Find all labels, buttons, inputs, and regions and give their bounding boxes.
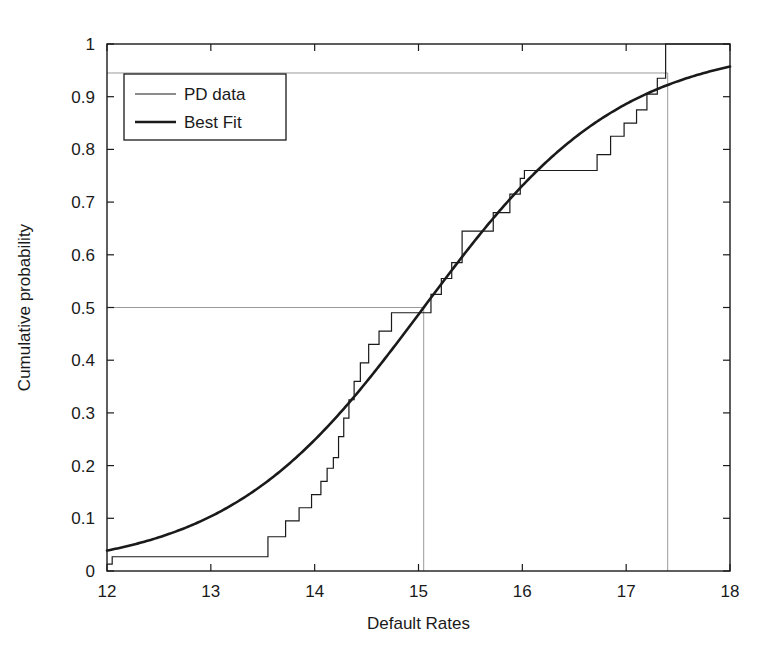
legend: PD dataBest Fit <box>124 74 286 140</box>
y-tick-label: 1 <box>86 35 95 54</box>
x-tick-label: 16 <box>513 582 532 601</box>
legend-label-1: PD data <box>184 85 246 104</box>
x-tick-label: 13 <box>201 582 220 601</box>
x-tick-label: 17 <box>617 582 636 601</box>
y-tick-label: 0.1 <box>71 509 95 528</box>
y-tick-label: 0.8 <box>71 140 95 159</box>
y-tick-label: 0.3 <box>71 404 95 423</box>
x-axis-label: Default Rates <box>367 614 470 633</box>
y-axis-label: Cumulative probability <box>15 223 34 391</box>
figure-container: 1213141516171800.10.20.30.40.50.60.70.80… <box>0 0 774 657</box>
y-tick-label: 0 <box>86 562 95 581</box>
y-tick-label: 0.4 <box>71 351 95 370</box>
y-tick-label: 0.2 <box>71 457 95 476</box>
y-tick-label: 0.6 <box>71 246 95 265</box>
y-tick-label: 0.7 <box>71 193 95 212</box>
reference-lines <box>107 73 668 571</box>
x-tick-label: 12 <box>98 582 117 601</box>
x-tick-label: 15 <box>409 582 428 601</box>
cdf-plot: 1213141516171800.10.20.30.40.50.60.70.80… <box>0 0 774 657</box>
x-tick-label: 18 <box>721 582 740 601</box>
legend-label-2: Best Fit <box>184 113 242 132</box>
x-tick-label: 14 <box>305 582 324 601</box>
y-tick-label: 0.5 <box>71 299 95 318</box>
y-tick-label: 0.9 <box>71 88 95 107</box>
